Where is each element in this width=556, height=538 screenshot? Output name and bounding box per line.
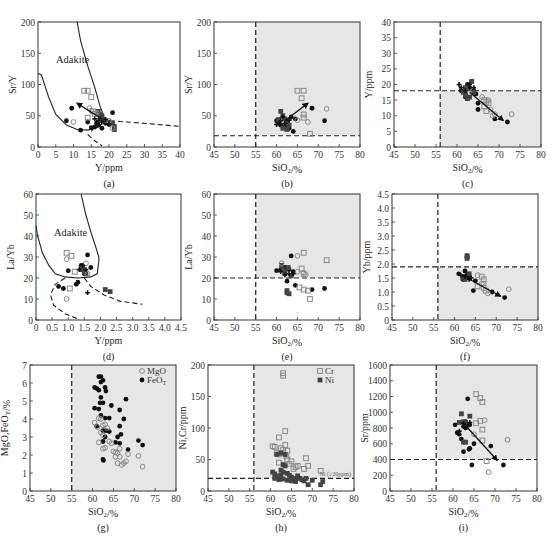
filled-square-marker	[285, 127, 290, 132]
filled-circle-marker	[465, 396, 470, 401]
x-tick-label: 65	[293, 323, 303, 333]
panel-i: 4550556065707580020040060080010001200140…	[359, 361, 542, 535]
axis-label: La/Yb	[5, 244, 16, 270]
y-tick-label: 10	[202, 295, 212, 305]
filled-square-marker	[467, 414, 472, 419]
x-tick-label: 15	[87, 150, 97, 160]
shaded-region	[254, 365, 354, 478]
y-tick-label: 0	[22, 487, 27, 497]
axis-label: SiO2/%	[272, 162, 302, 175]
y-tick-label: 50	[196, 455, 206, 465]
filled-circle-marker	[136, 438, 141, 443]
y-tick-label: 1	[22, 469, 27, 479]
x-tick-label: 70	[314, 323, 324, 333]
y-tick-label: 0	[28, 316, 33, 326]
panel-caption: (d)	[103, 351, 115, 363]
x-tick-label: 75	[150, 494, 160, 504]
x-tick-label: 0.5	[46, 323, 58, 333]
y-tick-label: 0.5	[377, 302, 389, 312]
y-tick-label: 200	[373, 471, 388, 481]
y-tick-label: 5	[22, 397, 27, 407]
open-square-marker	[67, 286, 72, 291]
x-tick-label: 80	[532, 494, 542, 504]
x-tick-label: 10	[69, 150, 79, 160]
axis-label: Y/ppm	[363, 70, 374, 98]
filled-circle-marker	[488, 444, 493, 449]
filled-circle-marker	[322, 286, 327, 291]
filled-square-marker	[281, 470, 286, 475]
filled-circle-marker	[98, 400, 103, 405]
filled-circle-marker	[110, 110, 115, 115]
open-circle-marker	[64, 297, 69, 302]
x-tick-label: 55	[429, 323, 439, 333]
filled-square-marker	[467, 271, 472, 276]
filled-circle-marker	[117, 424, 122, 429]
x-tick-label: 50	[230, 323, 240, 333]
y-tick-label: 1.0	[377, 288, 389, 298]
y-tick-label: 25	[382, 64, 392, 74]
x-tick-label: 60	[450, 323, 460, 333]
filled-circle-marker	[121, 417, 126, 422]
adakite-field-label: Adakite	[54, 227, 88, 238]
filled-circle-marker	[99, 380, 104, 385]
x-tick-label: 60	[88, 494, 98, 504]
x-tick-label: 70	[308, 494, 318, 504]
filled-square-marker	[278, 109, 283, 114]
filled-circle-marker	[470, 463, 475, 468]
y-tick-label: 0	[30, 143, 35, 153]
filled-circle-marker	[463, 269, 468, 274]
x-tick-label: 55	[251, 150, 261, 160]
figure-grid: 0510152025303540050100150200Y/ppmSr/Y(a)…	[0, 0, 556, 538]
filled-circle-marker	[85, 253, 90, 258]
filled-circle-marker	[56, 284, 61, 289]
x-tick-label: 75	[515, 150, 525, 160]
open-square-marker	[69, 254, 74, 259]
y-tick-label: 4	[22, 415, 27, 425]
y-tick-label: 1.5	[377, 274, 389, 284]
dashed-boundary-curve	[88, 135, 102, 146]
cross-marker	[85, 290, 90, 295]
filled-square-marker	[280, 126, 285, 131]
filled-square-marker	[459, 411, 464, 416]
dashed-boundary-curve	[84, 278, 142, 304]
x-tick-label: 70	[130, 494, 140, 504]
filled-square-marker	[103, 287, 108, 292]
x-tick-label: 75	[511, 494, 521, 504]
filled-circle-marker	[96, 388, 101, 393]
filled-circle-marker	[75, 280, 80, 285]
filled-square-marker	[274, 452, 279, 457]
plot-frame	[38, 22, 180, 147]
y-tick-label: 6	[22, 379, 27, 389]
y-tick-label: 2.0	[377, 260, 389, 270]
filled-circle-marker	[291, 129, 296, 134]
filled-circle-marker	[289, 254, 294, 259]
y-tick-label: 1200	[368, 392, 387, 402]
y-tick-label: 200	[191, 361, 206, 371]
x-tick-label: 75	[512, 323, 522, 333]
filled-circle-marker	[109, 403, 114, 408]
x-tick-label: 3.0	[127, 323, 139, 333]
panel-e: 45505560657075800102030405060SiO2/%La/Yb…	[183, 190, 365, 364]
y-tick-label: 3	[22, 433, 27, 443]
filled-square-marker	[287, 123, 292, 128]
series-open-circles	[64, 257, 90, 302]
y-tick-label: 20	[202, 274, 212, 284]
axis-label: SiO2/%	[452, 162, 482, 175]
x-tick-label: 80	[171, 494, 181, 504]
x-tick-label: 65	[293, 150, 303, 160]
y-tick-label: 10	[24, 295, 34, 305]
filled-circle-marker	[61, 286, 66, 291]
y-tick-label: 150	[21, 49, 36, 59]
filled-circle-marker	[476, 107, 481, 112]
y-tick-label: 2	[22, 451, 27, 461]
filled-circle-marker	[119, 432, 124, 437]
filled-square-marker	[283, 452, 288, 457]
panel-caption: (f)	[460, 351, 470, 363]
filled-circle-marker	[117, 441, 122, 446]
panel-caption: (g)	[97, 522, 109, 534]
x-tick-label: 80	[533, 323, 543, 333]
panel-c: 45505560657075800510152025303540SiO2/%Y/…	[363, 18, 546, 191]
x-tick-label: 65	[473, 150, 483, 160]
filled-square-marker	[318, 378, 323, 383]
filled-square-marker	[277, 477, 282, 482]
